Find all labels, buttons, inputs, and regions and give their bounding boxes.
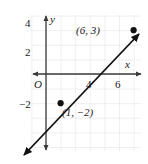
point-label-1-neg2: (1, −2) — [62, 107, 93, 118]
y-axis-label: y — [50, 14, 55, 25]
x-tick-label-4: 4 — [86, 79, 92, 90]
y-tick-label-4: 4 — [25, 18, 31, 29]
y-tick-label-2: 2 — [25, 47, 31, 58]
data-point-6-3 — [131, 27, 137, 33]
point-label-6-3: (6, 3) — [76, 25, 100, 36]
x-tick-label-6: 6 — [115, 79, 121, 90]
x-axis-label: x — [125, 59, 130, 70]
origin-label: O — [34, 79, 42, 90]
coordinate-plane-figure: 4 2 −2 4 6 O y x (6, 3) (1, −2) — [0, 0, 148, 164]
graph-canvas — [0, 0, 148, 164]
y-tick-label-neg2: −2 — [19, 99, 31, 110]
